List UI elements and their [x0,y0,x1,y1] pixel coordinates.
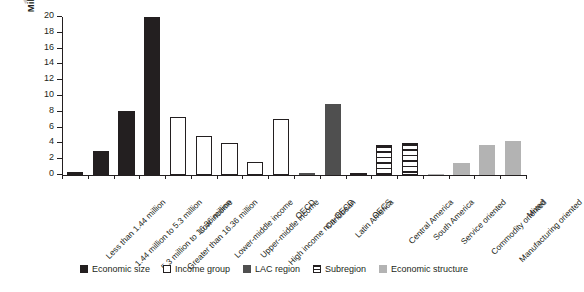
x-axis-tick [294,175,295,179]
y-axis-tick: 12 [57,79,62,80]
x-axis-tick-label: Manufacturing oriented [517,197,584,264]
legend-swatch-subregion [313,265,321,273]
x-axis-tick-label: Caribbean [323,197,357,231]
y-axis-tick-label: 18 [44,26,54,36]
legend-swatch-economic-structure [379,265,387,273]
bar [118,111,134,175]
legend-item: Income group [163,264,230,274]
x-axis-tick [114,175,115,179]
bar [350,173,366,175]
x-axis-tick [423,175,424,179]
bar [479,145,495,175]
y-axis-tick: 8 [57,111,62,112]
legend-item: Economic size [80,264,150,274]
x-axis-tick [139,175,140,179]
x-axis-tick [449,175,450,179]
x-axis-tick [165,175,166,179]
x-axis-tick [191,175,192,179]
y-axis-tick-label: 8 [49,105,54,115]
legend-label: Economic structure [391,264,468,274]
y-axis-tick-label: 12 [44,73,54,83]
y-axis-tick: 18 [57,32,62,33]
bar [221,143,237,175]
bar [67,172,83,175]
y-axis-tick-label: 4 [49,136,54,146]
bar [505,141,521,175]
x-axis-tick [320,175,321,179]
x-axis-tick [397,175,398,179]
y-axis-tick: 2 [57,158,62,159]
legend-label: Economic size [92,264,150,274]
x-axis-tick [346,175,347,179]
y-axis-tick: 14 [57,63,62,64]
x-axis-tick [242,175,243,179]
bar [93,151,109,175]
legend-label: Subregion [325,264,366,274]
legend-swatch-economic-size [80,265,88,273]
legend-swatch-income-group [163,265,171,273]
x-axis-tick [474,175,475,179]
y-axis-tick: 4 [57,142,62,143]
x-axis-tick-label: Less than 1.44 million [103,197,167,261]
bar [170,117,186,175]
y-axis-tick-label: 10 [44,89,54,99]
legend-swatch-lac-region [243,265,251,273]
legend-item: Subregion [313,264,366,274]
x-axis-tick [500,175,501,179]
x-axis-tick [62,175,63,179]
legend-item: LAC region [243,264,300,274]
bar [196,136,212,176]
y-axis-tick-label: 14 [44,57,54,67]
legend-label: Income group [175,264,230,274]
bar [376,145,392,175]
plot-area: 02468101214161820 Less than 1.44 million… [62,17,526,175]
x-axis-tick [526,175,527,179]
y-axis-tick: 6 [57,127,62,128]
x-axis-tick [268,175,269,179]
y-axis-tick-label: 2 [49,152,54,162]
legend-label: LAC region [255,264,300,274]
bar [299,173,315,175]
y-axis-tick: 10 [57,95,62,96]
y-axis-tick-label: 6 [49,121,54,131]
x-axis-tick [371,175,372,179]
y-axis-line [62,17,63,175]
bar [144,17,160,175]
y-axis-title: Millions of people [24,0,38,30]
legend-item: Economic structure [379,264,468,274]
y-axis-tick-label: 20 [44,10,54,20]
x-axis-tick [88,175,89,179]
bar [273,119,289,175]
bar [453,163,469,175]
bar [402,143,418,175]
x-axis-tick [217,175,218,179]
bar [325,104,341,175]
y-axis-tick: 20 [57,16,62,17]
y-axis-tick: 16 [57,48,62,49]
y-axis-tick-label: 16 [44,42,54,52]
bar [247,162,263,175]
chart-legend: Economic sizeIncome groupLAC regionSubre… [0,264,548,274]
bar [428,174,444,175]
y-axis-tick-label: 0 [49,168,54,178]
